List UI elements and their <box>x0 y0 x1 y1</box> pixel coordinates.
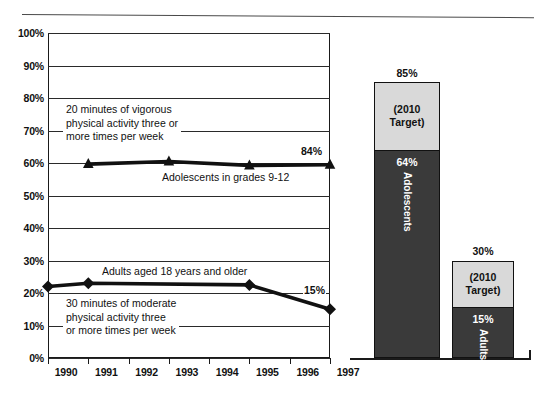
adolescents-series-label: Adolescents in grades 9-12 <box>160 171 291 183</box>
bar-adults-actual-name: Adults <box>478 329 489 360</box>
bar-adults-actual-value: 15% <box>472 313 493 325</box>
adults-marker-1995 <box>243 279 255 291</box>
bar-adults-target-segment: (2010 Target) <box>453 262 513 309</box>
series-graphics-layer <box>0 28 340 368</box>
bar-adolescents: (2010 Target) 64% Adolescents <box>374 82 440 358</box>
line-plot-panel: 100% 90% 80% 70% 60% 50% 40% 30% 20% 10%… <box>0 28 340 368</box>
chart-figure: 100% 90% 80% 70% 60% 50% 40% 30% 20% 10%… <box>0 0 552 395</box>
bar-adolescents-actual-segment: 64% Adolescents <box>375 151 439 357</box>
bar-baseline-end-cap <box>529 350 531 360</box>
bar-adolescents-total-label: 85% <box>374 67 440 79</box>
bar-panel: (2010 Target) 64% Adolescents 85% (2010 … <box>340 28 552 368</box>
adults-series-label: Adults aged 18 years and older <box>100 265 249 277</box>
bar-adolescents-target-segment: (2010 Target) <box>375 83 439 151</box>
adults-marker-1997 <box>324 303 336 315</box>
adults-endpoint-label: 15% <box>303 284 326 296</box>
adults-marker-1991 <box>82 277 94 289</box>
bar-adults-actual-segment: 15% Adults <box>453 308 513 357</box>
bar-adults-total-label: 30% <box>452 245 514 257</box>
top-divider-rule <box>22 14 534 18</box>
adolescents-line <box>88 162 330 166</box>
bar-adolescents-actual-value: 64% <box>396 156 417 168</box>
bar-adults: (2010 Target) 15% Adults <box>452 261 514 359</box>
adolescents-endpoint-label: 84% <box>300 145 323 157</box>
bar-adolescents-target-label: (2010 Target) <box>390 103 425 129</box>
bar-adults-target-label: (2010 Target) <box>466 271 501 297</box>
bar-adolescents-actual-name: Adolescents <box>402 172 413 231</box>
adults-marker-1990 <box>42 281 54 293</box>
bar-baseline <box>350 358 531 360</box>
